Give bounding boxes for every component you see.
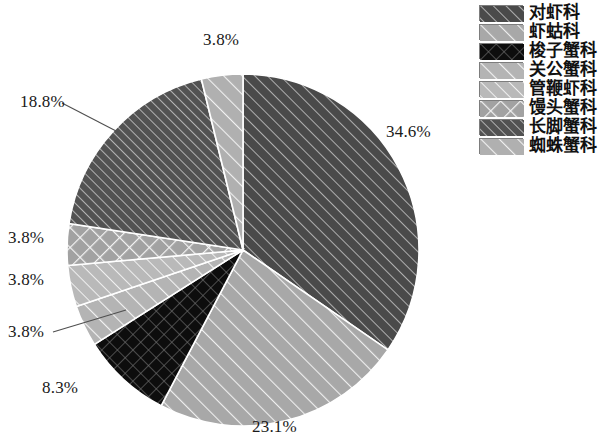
slice-percent-label: 3.8% <box>8 270 44 290</box>
slice-percent-label: 3.8% <box>8 322 44 342</box>
legend-item[interactable]: 对虾科 <box>479 3 609 22</box>
legend-item[interactable]: 关公蟹科 <box>479 60 609 79</box>
legend-item-label: 长脚蟹科 <box>529 118 597 135</box>
slice-percent-label: 3.8% <box>203 30 239 50</box>
legend-item-label: 梭子蟹科 <box>529 42 597 59</box>
slice-percent-label: 3.8% <box>8 228 44 248</box>
legend-item-label: 对虾科 <box>529 4 580 21</box>
legend-swatch-icon <box>479 43 523 59</box>
legend-item-label: 管鞭虾科 <box>529 80 597 97</box>
legend-item[interactable]: 管鞭虾科 <box>479 79 609 98</box>
pie-slices-group <box>67 74 419 426</box>
legend-item[interactable]: 长脚蟹科 <box>479 117 609 136</box>
leader-line-18-8 <box>62 103 118 132</box>
slice-percent-label: 18.8% <box>20 92 65 112</box>
legend-swatch-icon <box>479 62 523 78</box>
legend-item-label: 虾蛄科 <box>529 23 580 40</box>
legend-swatch-icon <box>479 81 523 97</box>
legend-item[interactable]: 虾蛄科 <box>479 22 609 41</box>
legend-item[interactable]: 梭子蟹科 <box>479 41 609 60</box>
legend-item[interactable]: 蜘蛛蟹科 <box>479 136 609 155</box>
legend-swatch-icon <box>479 24 523 40</box>
legend: 对虾科虾蛄科梭子蟹科关公蟹科管鞭虾科馒头蟹科长脚蟹科蜘蛛蟹科 <box>479 3 609 156</box>
legend-swatch-icon <box>479 119 523 135</box>
pie-chart-figure: 34.6%23.1%8.3%3.8%3.8%3.8%18.8%3.8% 对虾科虾… <box>0 0 612 445</box>
slice-percent-label: 8.3% <box>42 378 78 398</box>
slice-percent-label: 34.6% <box>386 122 431 142</box>
legend-swatch-icon <box>479 138 523 154</box>
legend-item-label: 馒头蟹科 <box>529 99 597 116</box>
legend-swatch-icon <box>479 5 523 21</box>
legend-item-label: 蜘蛛蟹科 <box>529 137 597 154</box>
legend-item[interactable]: 馒头蟹科 <box>479 98 609 117</box>
legend-swatch-icon <box>479 100 523 116</box>
slice-percent-label: 23.1% <box>252 417 297 437</box>
legend-item-label: 关公蟹科 <box>529 61 597 78</box>
